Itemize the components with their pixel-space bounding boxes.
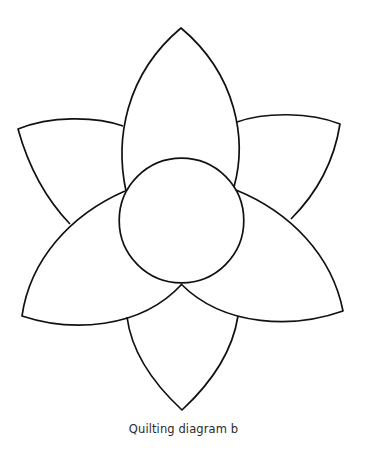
center-circle	[119, 158, 244, 283]
upper-right-petal	[237, 115, 340, 219]
upper-left-petal	[18, 119, 123, 224]
bottom-petal	[127, 316, 238, 410]
figure-caption: Quilting diagram b	[0, 422, 367, 436]
quilting-flower-diagram	[0, 0, 367, 452]
